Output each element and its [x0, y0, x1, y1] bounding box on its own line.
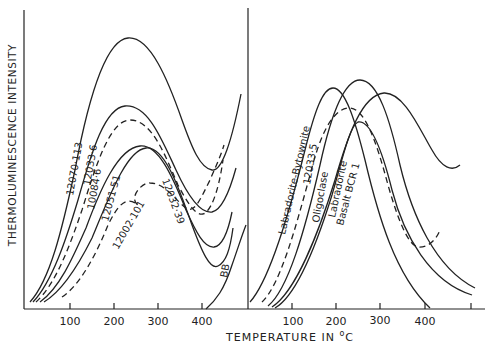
tick-label: 200: [104, 315, 125, 328]
right-panel-curves: [250, 80, 475, 308]
x-axis-label: TEMPERATURE IN oC: [225, 329, 354, 344]
label-bb: BB: [218, 263, 231, 279]
tick-label: 300: [148, 315, 169, 328]
right-panel-labels: Labradorite-Bytownite 12033·5 Oligoclase…: [276, 125, 361, 236]
label-12002-101: 12002·101: [110, 199, 147, 251]
tick-label: 400: [192, 315, 213, 328]
right-x-ticks: 100 200 300 400: [283, 303, 472, 328]
tick-label: 200: [326, 315, 347, 328]
y-axis-label: THERMOLUMINESCENCE INTENSITY: [6, 44, 18, 247]
tick-label: 300: [370, 314, 391, 327]
thermoluminescence-chart: 100 200 300 400 100 200 300 400 THERMOLU…: [0, 0, 485, 345]
tick-label: 100: [283, 315, 304, 328]
left-panel-curves: [30, 38, 246, 309]
left-x-ticks: 100 200 300 400: [60, 303, 213, 328]
tick-label: 100: [60, 315, 81, 328]
label-12051-51: 12051·51: [99, 174, 122, 223]
tick-label: 400: [415, 315, 436, 328]
